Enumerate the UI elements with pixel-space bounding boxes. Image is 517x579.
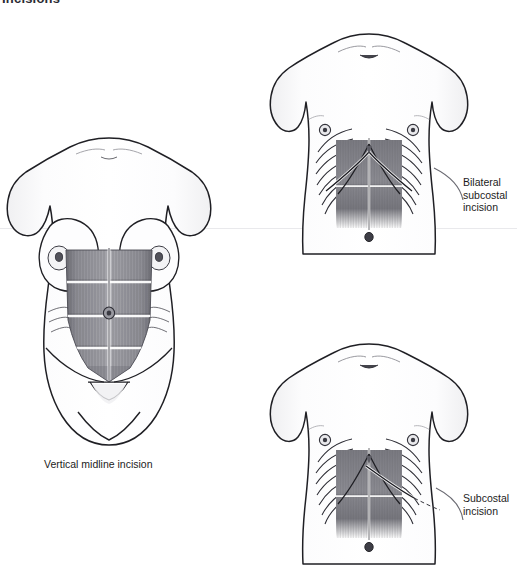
leader-line-bilateral bbox=[434, 168, 463, 200]
nipple-left-1 bbox=[319, 124, 330, 135]
leader-line-subcostal bbox=[436, 488, 463, 520]
caption-subcostal: Subcostal incision bbox=[463, 492, 509, 517]
umbilicus-2 bbox=[365, 542, 373, 551]
figure-subcostal bbox=[264, 338, 474, 568]
figure-vertical-midline bbox=[4, 130, 214, 440]
nipple-right-1 bbox=[407, 124, 418, 135]
umbilicus bbox=[103, 307, 114, 319]
umbilicus-1 bbox=[365, 232, 373, 241]
caption-vertical-midline: Vertical midline incision bbox=[44, 458, 153, 471]
illustration-plate: Incisions bbox=[0, 0, 517, 579]
caption-bilateral-subcostal: Bilateral subcostal incision bbox=[463, 176, 507, 214]
nipple-left-2 bbox=[319, 434, 330, 445]
nipple-right-2 bbox=[407, 434, 418, 445]
plate-title: Incisions bbox=[2, 0, 60, 6]
figure-bilateral-subcostal bbox=[264, 28, 474, 258]
